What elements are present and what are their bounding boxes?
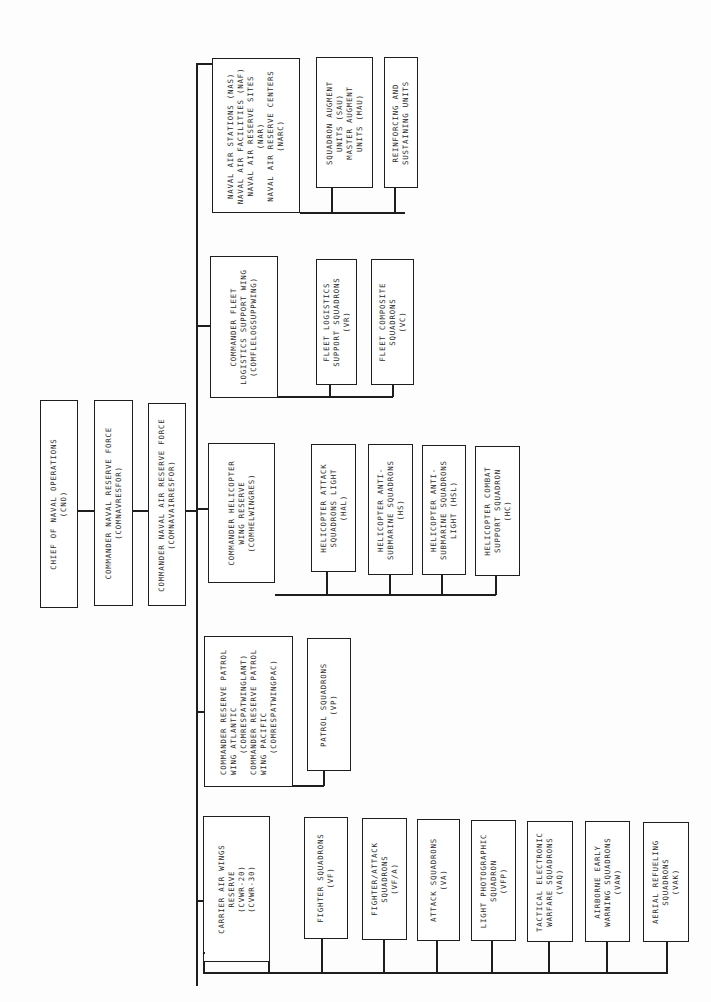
box-label: HELICOPTER COMBAT SUPPORT SQUADRON (HC) xyxy=(483,466,513,555)
box-label: FLEET COMPOSITE SQUADRONS (VC) xyxy=(378,283,408,362)
connector xyxy=(196,900,203,902)
box-va: ATTACK SQUADRONS (VA) xyxy=(417,819,460,941)
box-vp: PATROL SQUADRONS (VP) xyxy=(307,638,351,771)
connector xyxy=(278,396,393,398)
connector xyxy=(491,941,493,973)
box-label: FIGHTER SQUADRONS (VF) xyxy=(316,833,336,922)
box-label: COMMANDER NAVAL RESERVE FORCE (COMNAVRES… xyxy=(104,427,124,579)
box-hc: HELICOPTER COMBAT SUPPORT SQUADRON (HC) xyxy=(475,446,520,576)
connector xyxy=(392,385,394,397)
box-label: NAVAL AIR STATIONS (NAS) NAVAL AIR FACIL… xyxy=(226,67,286,204)
box-label: FLEET LOGISTICS SUPPORT SQUADRONS (VR) xyxy=(322,277,352,366)
box-comnavairresfor: COMMANDER NAVAL AIR RESERVE FORCE (COMNA… xyxy=(148,403,186,606)
connector xyxy=(196,325,210,327)
connector xyxy=(268,961,270,973)
connector xyxy=(329,385,331,397)
connector xyxy=(394,188,396,213)
box-label: HELICOPTER ATTACK SQUADRONS LIGHT (HAL) xyxy=(319,463,349,552)
box-label: CARRIER AIR WINGS RESERVE (CVWR-20) (CVW… xyxy=(217,844,257,933)
box-label: AIRBORNE EARLY WARNING SQUADRONS (VAW) xyxy=(593,837,623,926)
box-vak: AERIAL REFUELING SQUADRONS (VAK) xyxy=(643,822,689,942)
connector xyxy=(203,952,205,954)
connector xyxy=(196,63,212,65)
box-label: TACTICAL ELECTRONIC WARFARE SQUADRONS (V… xyxy=(535,832,565,932)
box-vfp: LIGHT PHOTOGRAPHIC SQUADRON (VFP) xyxy=(471,820,516,941)
connector xyxy=(293,785,324,787)
box-carrier-air-wings: CARRIER AIR WINGS RESERVE (CVWR-20) (CVW… xyxy=(203,816,270,962)
connector xyxy=(383,940,385,973)
box-fleet-logistics-wing: COMMANDER FLEET LOGISTICS SUPPORT WING (… xyxy=(210,256,278,398)
box-hs: HELICOPTER ANTI- SUBMARINE SQUADRONS (HS… xyxy=(368,444,413,575)
box-label: CHIEF OF NAVAL OPERATIONS (CNO) xyxy=(49,438,69,569)
connector xyxy=(436,941,438,973)
box-reinforcing-sustaining-units: REINFORCING AND SUSTAINING UNITS xyxy=(384,57,418,188)
box-patrol-wing: COMMANDER RESERVE PATROL WING ATLANTIC (… xyxy=(204,636,293,787)
box-cno: CHIEF OF NAVAL OPERATIONS (CNO) xyxy=(40,400,78,608)
box-vfa: FIGHTER/ATTACK SQUADRONS (VF/A) xyxy=(362,818,407,940)
box-naval-air-stations: NAVAL AIR STATIONS (NAS) NAVAL AIR FACIL… xyxy=(212,58,300,213)
box-comnavresfor: COMMANDER NAVAL RESERVE FORCE (COMNAVRES… xyxy=(94,400,133,606)
box-label: FIGHTER/ATTACK SQUADRONS (VF/A) xyxy=(370,842,400,916)
box-vaw: AIRBORNE EARLY WARNING SQUADRONS (VAW) xyxy=(585,821,630,942)
connector xyxy=(323,771,325,786)
connector xyxy=(441,575,443,595)
box-label: COMMANDER FLEET LOGISTICS SUPPORT WING (… xyxy=(229,269,259,385)
connector xyxy=(606,942,608,973)
box-vaq: TACTICAL ELECTRONIC WARFARE SQUADRONS (V… xyxy=(527,821,573,942)
box-label: LIGHT PHOTOGRAPHIC SQUADRON (VFP) xyxy=(479,833,509,928)
box-label: REINFORCING AND SUSTAINING UNITS xyxy=(391,81,411,165)
connector xyxy=(389,575,391,595)
box-label: HELICOPTER ANTI- SUBMARINE SQUADRONS (HS… xyxy=(376,460,406,560)
box-vc: FLEET COMPOSITE SQUADRONS (VC) xyxy=(371,259,414,385)
connector xyxy=(331,188,333,213)
connector xyxy=(495,576,497,595)
connector xyxy=(196,711,204,713)
trunk-line xyxy=(196,63,198,986)
connector xyxy=(196,508,208,510)
box-vr: FLEET LOGISTICS SUPPORT SQUADRONS (VR) xyxy=(316,259,357,385)
connector xyxy=(133,510,148,512)
box-squadron-augment-units: SQUADRON AUGMENT UNITS (SAU) MASTER AUGM… xyxy=(316,57,373,188)
org-chart: CHIEF OF NAVAL OPERATIONS (CNO) COMMANDE… xyxy=(0,0,711,1002)
box-label: ATTACK SQUADRONS (VA) xyxy=(429,838,449,922)
box-label: COMMANDER NAVAL AIR RESERVE FORCE (COMNA… xyxy=(157,418,177,591)
box-label: AERIAL REFUELING SQUADRONS (VAK) xyxy=(651,840,681,924)
box-label: HELICOPTER ANTI- SUBMARINE SQUADRONS LIG… xyxy=(429,460,459,560)
box-hsl: HELICOPTER ANTI- SUBMARINE SQUADRONS LIG… xyxy=(422,445,466,575)
connector xyxy=(300,212,405,214)
box-label: SQUADRON AUGMENT UNITS (SAU) MASTER AUGM… xyxy=(325,81,365,165)
connector xyxy=(666,942,668,973)
box-label: PATROL SQUADRONS (VP) xyxy=(319,663,339,747)
connector xyxy=(326,572,328,595)
connector xyxy=(78,510,94,512)
box-vf: FIGHTER SQUADRONS (VF) xyxy=(304,817,348,939)
box-hal: HELICOPTER ATTACK SQUADRONS LIGHT (HAL) xyxy=(311,444,356,572)
connector xyxy=(548,942,550,973)
box-label: COMMANDER HELICOPTER WING RESERVE (COMHE… xyxy=(227,461,257,566)
box-helicopter-wing: COMMANDER HELICOPTER WING RESERVE (COMHE… xyxy=(208,443,275,583)
connector xyxy=(275,594,496,596)
box-label: COMMANDER RESERVE PATROL WING ATLANTIC (… xyxy=(219,649,279,775)
connector xyxy=(321,939,323,973)
